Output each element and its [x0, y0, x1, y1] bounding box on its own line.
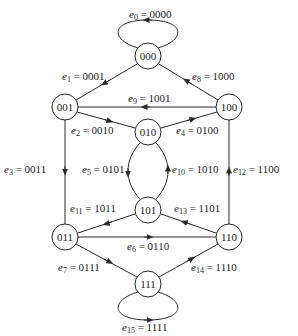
label-e15: e15 = 1111	[122, 321, 167, 335]
node-100: 100	[216, 94, 242, 120]
label-e4: e4 = 0100	[176, 124, 219, 138]
label-e9: e9 = 1001	[128, 92, 171, 106]
label-e5: e5 = 0101	[82, 163, 125, 177]
node-111: 111	[135, 271, 161, 297]
node-000: 000	[135, 43, 161, 69]
svg-text:000: 000	[140, 50, 157, 62]
label-e12: e12 = 1100	[233, 163, 280, 177]
svg-text:101: 101	[140, 204, 157, 216]
svg-text:110: 110	[221, 231, 238, 243]
svg-text:010: 010	[140, 126, 157, 138]
label-e10: e10 = 1010	[172, 163, 219, 177]
svg-text:100: 100	[221, 101, 238, 113]
label-e7: e7 = 0111	[58, 261, 100, 275]
label-e11: e11 = 1011	[70, 202, 116, 216]
svg-text:001: 001	[57, 101, 74, 113]
label-e6: e6 = 0110	[127, 240, 170, 254]
node-101: 101	[135, 197, 161, 223]
label-e14: e14 = 1110	[191, 261, 237, 275]
node-011: 011	[52, 224, 78, 250]
edge-e10	[156, 143, 168, 199]
state-diagram: 000 001 100 010 101 011 110 111 e0 = 000…	[0, 0, 298, 336]
label-e8: e8 = 1000	[192, 70, 235, 84]
label-e13: e13 = 1101	[174, 202, 220, 216]
svg-text:111: 111	[140, 278, 156, 290]
svg-text:011: 011	[57, 231, 73, 243]
label-e3: e3 = 0011	[4, 163, 46, 177]
diagram-svg: 000 001 100 010 101 011 110 111 e0 = 000…	[0, 0, 298, 336]
node-001: 001	[52, 94, 78, 120]
label-e0: e0 = 0000	[129, 8, 172, 22]
node-110: 110	[216, 224, 242, 250]
label-e1: e1 = 0001	[62, 70, 105, 84]
node-010: 010	[135, 119, 161, 145]
edge-e5	[128, 143, 140, 199]
label-e2: e2 = 0010	[71, 124, 114, 138]
